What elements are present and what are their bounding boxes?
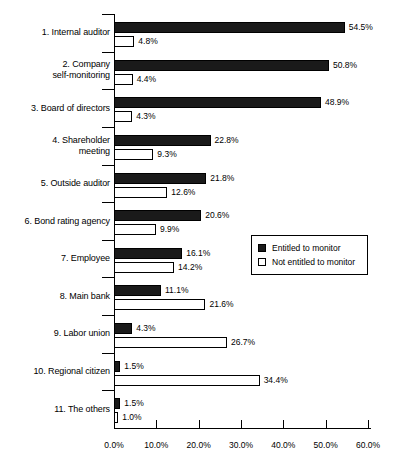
bar-value-label: 50.8%: [333, 60, 357, 71]
bar-not-entitled: [114, 262, 174, 273]
category-group-tick: [102, 353, 114, 354]
bar-value-label: 11.1%: [165, 285, 188, 296]
bar-not-entitled: [114, 224, 156, 235]
bar-not-entitled: [114, 375, 260, 386]
category-axis-labels: 1. Internal auditor2. Company self-monit…: [0, 14, 110, 428]
x-axis-tick: [368, 420, 369, 428]
x-axis-tick: [156, 420, 157, 428]
bar-value-label: 26.7%: [231, 337, 255, 348]
bar-not-entitled: [114, 74, 133, 85]
bar-not-entitled: [114, 299, 205, 310]
bar-entitled: [114, 173, 206, 184]
category-label: 8. Main bank: [0, 291, 110, 302]
bar-not-entitled: [114, 36, 134, 47]
bar-chart: 1. Internal auditor2. Company self-monit…: [0, 0, 394, 466]
bar-value-label: 22.8%: [215, 135, 239, 146]
bar-value-label: 48.9%: [325, 97, 349, 108]
bar-value-label: 54.5%: [349, 22, 373, 33]
bar-value-label: 4.4%: [137, 74, 156, 85]
category-label: 10. Regional citizen: [0, 366, 110, 377]
legend-label-not-entitled: Not entitled to monitor: [272, 257, 355, 267]
bar-not-entitled: [114, 149, 153, 160]
legend-swatch-filled-square-icon: [258, 244, 266, 252]
legend-entry-not-entitled: Not entitled to monitor: [258, 255, 361, 269]
category-label: 2. Company self-monitoring: [0, 59, 110, 81]
bar-value-label: 34.4%: [264, 375, 288, 386]
x-axis-tick: [283, 420, 284, 428]
x-axis-tick-label: 30.0%: [229, 440, 253, 450]
bar-entitled: [114, 248, 182, 259]
bar-value-label: 12.6%: [171, 187, 195, 198]
x-axis-tick-label: 50.0%: [314, 440, 338, 450]
legend-entry-entitled: Entitled to monitor: [258, 241, 361, 255]
bar-entitled: [114, 361, 120, 372]
x-axis-tick-label: 10.0%: [144, 440, 168, 450]
bar-value-label: 9.3%: [157, 149, 176, 160]
category-label: 4. Shareholder meeting: [0, 135, 110, 157]
bar-value-label: 1.5%: [124, 398, 143, 409]
bar-entitled: [114, 22, 345, 33]
category-group-tick: [102, 240, 114, 241]
bar-entitled: [114, 210, 201, 221]
category-group-tick: [102, 202, 114, 203]
bar-value-label: 1.5%: [124, 361, 143, 372]
category-group-tick: [102, 165, 114, 166]
category-group-tick: [102, 315, 114, 316]
category-label: 6. Bond rating agency: [0, 216, 110, 227]
bar-value-label: 21.8%: [210, 173, 234, 184]
category-group-tick: [102, 14, 114, 15]
category-label: 5. Outside auditor: [0, 178, 110, 189]
x-axis-line: [114, 428, 371, 429]
x-axis-tick-label: 40.0%: [271, 440, 295, 450]
category-group-tick: [102, 52, 114, 53]
x-axis-tick: [241, 420, 242, 428]
x-axis-tick: [326, 420, 327, 428]
category-label: 3. Board of directors: [0, 103, 110, 114]
plot-area: 54.5%4.8%50.8%4.4%48.9%4.3%22.8%9.3%21.8…: [114, 14, 368, 428]
bar-entitled: [114, 398, 120, 409]
bar-value-label: 14.2%: [178, 262, 202, 273]
category-label: 7. Employee: [0, 253, 110, 264]
category-label: 11. The others: [0, 404, 110, 415]
category-group-tick: [102, 127, 114, 128]
bar-value-label: 21.6%: [209, 299, 233, 310]
bar-not-entitled: [114, 111, 132, 122]
bar-value-label: 1.0%: [122, 412, 141, 423]
bar-value-label: 16.1%: [186, 248, 210, 259]
bar-value-label: 20.6%: [205, 210, 229, 221]
x-axis-tick-label: 20.0%: [187, 440, 211, 450]
legend-label-entitled: Entitled to monitor: [272, 243, 341, 253]
bar-value-label: 4.3%: [136, 111, 155, 122]
bar-not-entitled: [114, 187, 167, 198]
bar-value-label: 9.9%: [160, 224, 179, 235]
bar-entitled: [114, 135, 211, 146]
bar-entitled: [114, 60, 329, 71]
x-axis-tick-label: 0.0%: [104, 440, 123, 450]
x-axis-tick: [199, 420, 200, 428]
chart-legend: Entitled to monitor Not entitled to moni…: [251, 235, 368, 275]
bar-not-entitled: [114, 337, 227, 348]
category-group-tick: [102, 89, 114, 90]
legend-swatch-open-square-icon: [258, 258, 266, 266]
bar-entitled: [114, 97, 321, 108]
bar-entitled: [114, 323, 132, 334]
category-label: 1. Internal auditor: [0, 27, 110, 38]
x-axis-tick-label: 60.0%: [356, 440, 380, 450]
bar-entitled: [114, 285, 161, 296]
category-group-tick: [102, 277, 114, 278]
category-label: 9. Labor union: [0, 328, 110, 339]
category-group-tick: [102, 390, 114, 391]
bar-value-label: 4.3%: [136, 323, 155, 334]
bar-value-label: 4.8%: [138, 36, 157, 47]
x-axis-tick: [114, 420, 115, 428]
